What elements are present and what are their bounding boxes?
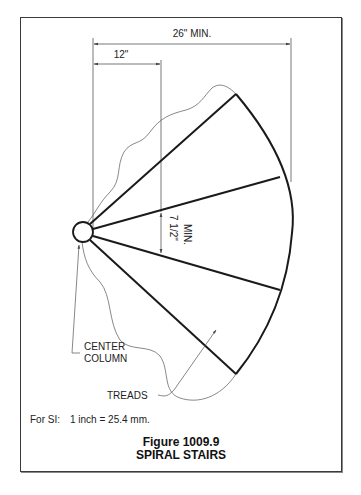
- break-line-top: [88, 85, 236, 222]
- si-note-value: 1 inch = 25.4 mm.: [70, 414, 150, 425]
- outer-arc: [236, 94, 293, 374]
- dimension-label-min-text: MIN.: [182, 224, 193, 245]
- dimension-label-7-5in: 7 1/2": [168, 215, 179, 241]
- label-center-column-2: COLUMN: [84, 353, 127, 364]
- break-line-bottom: [82, 242, 236, 400]
- leader-center-column: [72, 245, 80, 353]
- center-column-circle: [73, 222, 93, 242]
- si-note: For SI:1 inch = 25.4 mm.: [30, 414, 150, 425]
- dimension-label-12in: 12": [114, 49, 129, 60]
- figure-title: SPIRAL STAIRS: [20, 449, 342, 462]
- leader-treads: [158, 330, 216, 396]
- dimension-label-26in: 26" MIN.: [173, 28, 212, 39]
- si-note-key: For SI:: [30, 414, 70, 425]
- tread-line-2: [93, 177, 280, 229]
- label-center-column-1: CENTER: [84, 341, 125, 352]
- tread-line-1: [90, 94, 236, 224]
- label-treads: TREADS: [107, 390, 148, 401]
- svg-text:7 1/2": 7 1/2": [168, 215, 179, 241]
- figure-caption: Figure 1009.9 SPIRAL STAIRS: [20, 436, 342, 462]
